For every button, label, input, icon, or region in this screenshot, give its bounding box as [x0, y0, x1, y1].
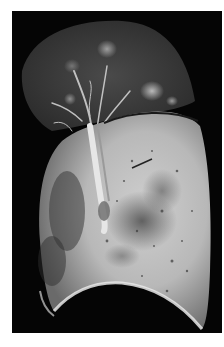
lung-specimen-illustration	[12, 11, 222, 333]
specimen-photo	[12, 11, 222, 333]
